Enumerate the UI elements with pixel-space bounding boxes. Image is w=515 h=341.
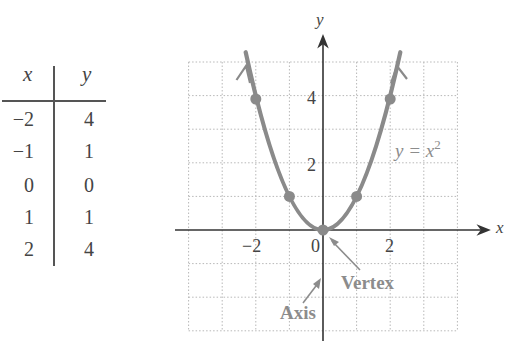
x-tick-label: −2 <box>242 236 261 256</box>
x-axis-label: x <box>495 218 504 237</box>
point <box>385 94 396 105</box>
point <box>318 225 329 236</box>
y-axis-label: y <box>314 10 324 29</box>
point <box>250 94 261 105</box>
x-tick-label: 2 <box>385 236 394 256</box>
vertex-arrow-icon <box>329 237 339 246</box>
equation-exponent: 2 <box>434 137 441 152</box>
point <box>284 191 295 202</box>
axis-annotation <box>303 278 321 303</box>
equation-base: y = x <box>393 140 435 161</box>
x-tick-label: 0 <box>311 236 320 256</box>
y-tick-label: 4 <box>307 88 316 108</box>
vertex-annotation <box>329 237 360 270</box>
equation-label: y = x2 <box>393 137 441 161</box>
y-tick-label: 2 <box>307 155 316 175</box>
vertex-label: Vertex <box>341 272 395 293</box>
parabola-graph: x y −2 0 2 2 4 y = x2 Vertex Axis <box>0 0 515 341</box>
axis-label: Axis <box>280 302 316 323</box>
point <box>351 191 362 202</box>
